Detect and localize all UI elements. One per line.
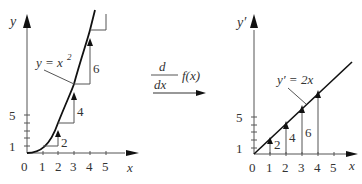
step-label: 4 — [77, 104, 84, 119]
right-x-tick-label: 0 — [249, 160, 256, 175]
curve-label-leader — [44, 70, 74, 84]
left-x-axis-label: x — [126, 160, 133, 175]
operator-numerator: d — [159, 59, 166, 74]
left-x-tick-label: 2 — [55, 159, 62, 174]
bar-label: 4 — [289, 130, 296, 145]
transform-arrow-icon — [196, 90, 206, 96]
left-y-tick-label: 5 — [9, 108, 16, 123]
left-y-axis-arrow-icon — [23, 14, 31, 28]
right-x-tick-label: 2 — [282, 160, 289, 175]
line-label-leader — [288, 88, 306, 104]
operator-function: f(x) — [182, 68, 200, 83]
left-graph: 2 4 6 y = x 2 y x 1 5 0 1 2 3 4 5 — [8, 10, 139, 175]
curve-label-exponent: 2 — [67, 52, 72, 62]
right-x-tick-label: 1 — [266, 160, 273, 175]
parabola-curve — [27, 10, 95, 153]
left-y-axis-label: y — [8, 14, 17, 29]
right-y-axis-arrow-icon — [250, 14, 258, 28]
step-arrow-icon — [71, 92, 77, 100]
right-x-tick-label: 4 — [314, 160, 321, 175]
curve-label: y = x — [34, 55, 63, 70]
operator-denominator: dx — [154, 77, 167, 92]
step-label: 6 — [93, 61, 100, 76]
bar-label: 6 — [305, 125, 312, 140]
left-x-tick-label: 4 — [86, 159, 93, 174]
derivative-operator: d dx f(x) — [151, 59, 206, 96]
left-x-tick-label: 1 — [39, 159, 46, 174]
right-y-tick-label: 1 — [236, 141, 243, 156]
right-y-axis-label: y′ — [235, 15, 247, 30]
right-graph: 2 4 6 y′ = 2x y′ x 1 5 0 1 2 3 4 5 — [235, 14, 358, 175]
left-x-tick-label: 5 — [102, 159, 109, 174]
left-y-tick-label: 1 — [9, 139, 16, 154]
right-x-tick-label: 5 — [330, 160, 337, 175]
bar-label: 2 — [274, 137, 281, 152]
step-label: 2 — [61, 135, 68, 150]
left-x-axis-arrow-icon — [126, 150, 139, 156]
left-x-tick-label: 0 — [21, 159, 28, 174]
line-label: y′ = 2x — [275, 72, 313, 87]
right-x-axis-arrow-icon — [346, 151, 358, 157]
right-x-axis-label: x — [348, 158, 355, 173]
right-x-tick-label: 3 — [298, 160, 305, 175]
derivative-diagram: 2 4 6 y = x 2 y x 1 5 0 1 2 3 4 5 d dx f… — [0, 0, 362, 184]
right-y-tick-label: 5 — [236, 110, 243, 125]
left-x-tick-label: 3 — [70, 159, 77, 174]
